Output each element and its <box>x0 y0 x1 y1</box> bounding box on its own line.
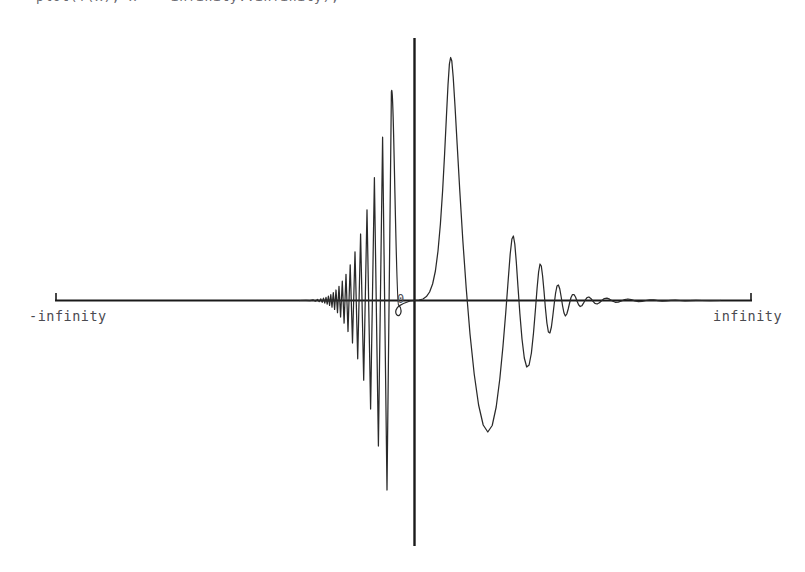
plot-svg <box>0 9 805 572</box>
x-axis-right-label: infinity <box>713 308 782 324</box>
plot-area: -infinity infinity 0 <box>0 9 805 572</box>
x-axis-left-label: -infinity <box>29 308 107 324</box>
function-curve <box>300 58 720 491</box>
command-echo-strip: plot(f(x), x = -infinity..infinity); <box>0 0 805 9</box>
curve-path <box>300 58 720 491</box>
origin-label: 0 <box>397 292 404 306</box>
command-text: plot(f(x), x = -infinity..infinity); <box>36 0 339 4</box>
